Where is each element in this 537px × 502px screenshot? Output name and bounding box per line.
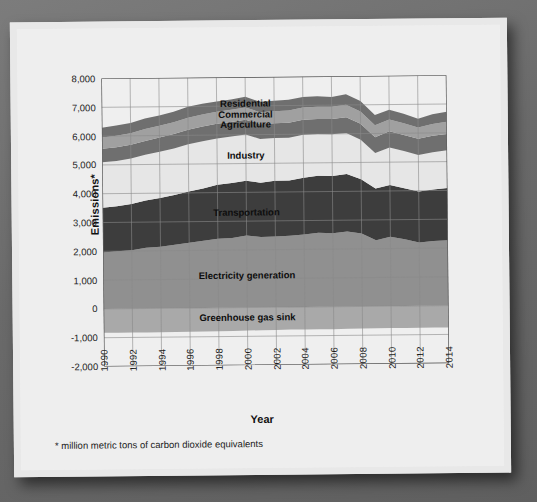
x-tick-label: 2004 <box>300 347 311 369</box>
x-tick-label: 2012 <box>415 346 426 368</box>
y-tick-label: 8,000 <box>72 73 96 84</box>
x-tick-label: 1994 <box>156 349 167 371</box>
y-tick-label: 7,000 <box>72 102 96 113</box>
x-tick-label: 2006 <box>328 347 339 369</box>
x-axis-title: Year <box>21 411 504 428</box>
y-tick-label: -2,000 <box>71 361 98 372</box>
y-tick-label: 2,000 <box>73 246 97 257</box>
x-tick-label: 2008 <box>357 347 368 369</box>
y-tick-label: 0 <box>92 303 97 314</box>
x-tick-label: 2000 <box>242 348 253 370</box>
x-tick-label: 1996 <box>185 348 196 370</box>
x-tick-label: 1992 <box>127 349 138 371</box>
x-tick-label: 2010 <box>386 346 397 368</box>
y-tick-label: 4,000 <box>73 188 97 199</box>
screenshot-scene: Emissions* Year * million metric tons of… <box>0 0 537 502</box>
chart-card-inner: Emissions* Year * million metric tons of… <box>17 25 504 471</box>
chart-card: Emissions* Year * million metric tons of… <box>10 18 511 478</box>
y-tick-label: -1,000 <box>71 332 98 343</box>
chart-footnote: * million metric tons of carbon dioxide … <box>55 438 263 451</box>
y-tick-label: 5,000 <box>72 159 96 170</box>
plot-area: 8,0007,0006,0005,0004,0003,0002,0001,000… <box>101 75 449 366</box>
y-tick-label: 1,000 <box>73 275 97 286</box>
x-tick-label: 2014 <box>443 346 454 368</box>
y-tick-label: 6,000 <box>72 131 96 142</box>
x-tick-label: 1998 <box>213 348 224 370</box>
x-tick-label: 1990 <box>98 349 109 371</box>
x-tick-label: 2002 <box>271 347 282 369</box>
area-chart-svg <box>101 75 449 366</box>
y-tick-label: 3,000 <box>73 217 97 228</box>
